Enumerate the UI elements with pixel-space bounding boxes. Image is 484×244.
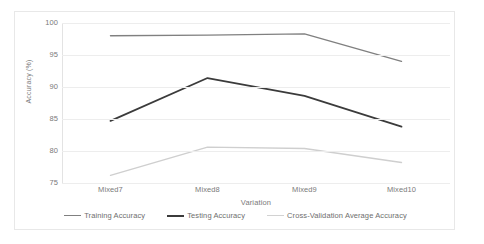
legend-line-swatch [64, 215, 81, 216]
gridline [62, 183, 450, 184]
legend-line-swatch [167, 215, 184, 217]
chart-figure: 100 95 90 85 80 75 Accuracy (%) Mixed7 M… [14, 11, 455, 230]
series-line [111, 34, 402, 62]
y-axis-line [62, 23, 63, 183]
legend-label: Training Accuracy [84, 212, 145, 220]
series-lines [62, 23, 450, 183]
x-tick-label: Mixed8 [173, 186, 243, 194]
y-axis-tick-labels: 100 95 90 85 80 75 [15, 23, 58, 183]
legend-label: Testing Accuracy [187, 212, 245, 220]
gridline [62, 55, 450, 56]
legend-line-swatch [267, 215, 284, 216]
y-tick-label: 80 [18, 147, 58, 155]
y-tick-label: 75 [18, 179, 58, 187]
legend-item-cross-validation-average-accuracy[interactable]: Cross-Validation Average Accuracy [267, 212, 407, 220]
chart-legend: Training Accuracy Testing Accuracy Cross… [15, 212, 456, 220]
y-axis-title: Accuracy (%) [25, 47, 32, 117]
gridline [62, 87, 450, 88]
y-tick-label: 100 [18, 19, 58, 27]
legend-label: Cross-Validation Average Accuracy [287, 212, 407, 220]
x-tick-label: Mixed9 [270, 186, 340, 194]
x-tick-label: Mixed10 [367, 186, 437, 194]
legend-item-testing-accuracy[interactable]: Testing Accuracy [167, 212, 245, 220]
x-tick-label: Mixed7 [76, 186, 146, 194]
gridline [62, 119, 450, 120]
gridline [62, 23, 450, 24]
x-axis-tick-labels: Mixed7 Mixed8 Mixed9 Mixed10 [62, 186, 450, 198]
plot-area [62, 23, 450, 183]
gridline [62, 151, 450, 152]
legend-item-training-accuracy[interactable]: Training Accuracy [64, 212, 145, 220]
x-axis-title: Variation [62, 198, 450, 207]
